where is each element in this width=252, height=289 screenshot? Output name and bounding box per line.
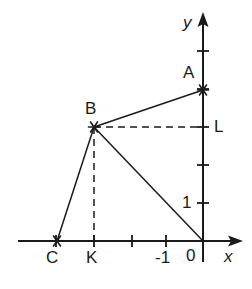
- point-label-b: B: [85, 100, 96, 117]
- segment-AB: [94, 90, 203, 127]
- y-axis-label: y: [183, 14, 192, 31]
- segments-group: [57, 90, 203, 241]
- point-label-a: A: [183, 64, 194, 81]
- segment-BC: [57, 127, 94, 241]
- figure-canvas: [0, 0, 252, 289]
- geometry-figure: y x A B C K L 0 1 -1: [0, 0, 252, 289]
- x-axis-label: x: [224, 248, 233, 265]
- point-label-l: L: [214, 118, 223, 135]
- point-label-k: K: [86, 249, 97, 266]
- x-axis-tick-label-minus-one: -1: [155, 249, 170, 266]
- y-axis-tick-label-one: 1: [182, 194, 191, 211]
- segment-BO: [94, 127, 203, 241]
- axes-group: [18, 12, 243, 262]
- point-label-c: C: [46, 249, 58, 266]
- origin-label: 0: [186, 247, 195, 264]
- point-marker-c: [52, 236, 63, 246]
